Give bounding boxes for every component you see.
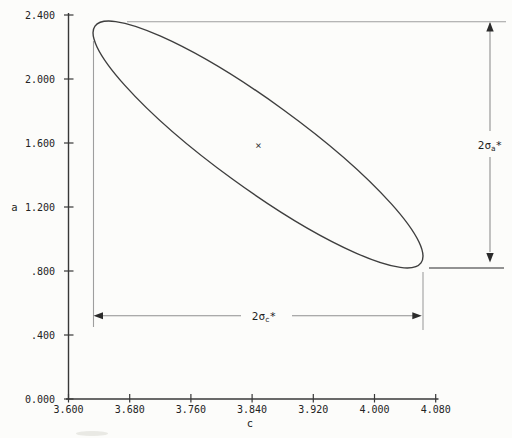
y-tick-label: 1.600 [25, 138, 55, 149]
extent-guides [94, 22, 507, 330]
x-tick-label: 3.600 [53, 404, 83, 415]
scan-artifact [76, 431, 108, 436]
sigma-c-suffix: * [270, 310, 277, 323]
x-tick-label: 4.000 [359, 404, 389, 415]
arrow-down-icon [486, 253, 493, 263]
x-tick-label: 3.680 [115, 404, 145, 415]
y-axis [64, 13, 74, 400]
sigma-a-prefix: 2σ [478, 139, 492, 152]
y-axis-title: a [11, 201, 17, 213]
y-tick-label: 2.400 [25, 10, 55, 21]
sigma-c-arrow: 2σc* [94, 310, 422, 325]
sigma-a-label: 2σa* [478, 139, 502, 154]
y-tick-labels: 2.400 2.000 1.600 1.200 .800 .400 0.000 [25, 10, 55, 405]
y-tick-label: 1.200 [25, 202, 55, 213]
y-tick-label: .400 [31, 330, 55, 341]
arrow-right-icon [412, 312, 422, 319]
sigma-a-arrow: 2σa* [478, 22, 502, 263]
y-tick-label: 0.000 [25, 394, 55, 405]
arrow-up-icon [486, 22, 493, 32]
x-axis [66, 394, 439, 403]
ellipse-plot: 2.400 2.000 1.600 1.200 .800 .400 0.000 … [0, 0, 512, 438]
sigma-c-label: 2σc* [252, 310, 276, 325]
x-tick-label: 4.080 [421, 404, 451, 415]
sigma-c-prefix: 2σ [252, 310, 266, 323]
x-tick-labels: 3.600 3.680 3.760 3.840 3.920 4.000 4.08… [53, 404, 450, 415]
ellipse-center-marker: × [255, 139, 261, 151]
x-tick-label: 3.760 [176, 404, 206, 415]
scanned-figure: 2.400 2.000 1.600 1.200 .800 .400 0.000 … [0, 0, 512, 438]
y-tick-label: .800 [31, 266, 55, 277]
x-tick-label: 3.920 [298, 404, 328, 415]
sigma-a-suffix: * [496, 139, 503, 152]
y-tick-label: 2.000 [25, 74, 55, 85]
arrow-left-icon [94, 312, 104, 319]
x-axis-title: c [247, 417, 253, 429]
x-tick-label: 3.840 [237, 404, 267, 415]
